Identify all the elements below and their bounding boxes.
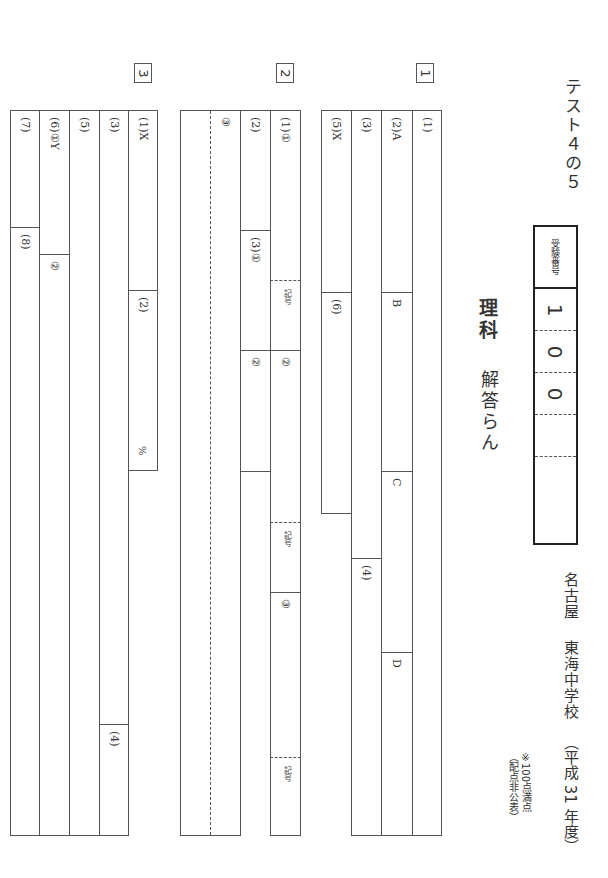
section-3-number: 3 <box>134 63 152 83</box>
exam-number-box: 受験番号 1 0 0 <box>533 225 578 545</box>
exam-digit-2[interactable]: 0 <box>535 331 576 373</box>
s3-q2-cell[interactable]: (2) % <box>128 290 158 471</box>
section-2-table: (1)① 記号 ② 記号 ③ 記号 (2) (3)① ② ③ <box>180 110 301 836</box>
s2-q2-cell[interactable]: (2) <box>240 110 271 231</box>
score-note: ※100点満点（配点非公表） <box>506 752 532 822</box>
s3-q3-cell[interactable]: (3) <box>99 110 129 725</box>
exam-digit-1[interactable]: 1 <box>535 289 576 331</box>
test-label: テスト４の５ <box>560 78 585 192</box>
s1-q2d-cell[interactable]: D <box>381 652 413 836</box>
s2-q1-1-cell[interactable]: (1)① <box>270 110 301 281</box>
s1-q2c-cell[interactable]: C <box>381 471 413 653</box>
section-2-number: 2 <box>276 63 294 83</box>
section-1-table: (1) (2)A B C D (3) (4) (5)X (6) <box>320 110 442 836</box>
s3-q7-cell[interactable]: (7) <box>10 110 40 228</box>
s2-q3-3-cell[interactable]: ③ <box>180 110 241 836</box>
s2-q3-2-cell[interactable]: ② <box>240 350 271 472</box>
section-3-table: (1)X (2) % (3) (4) (5) (6)①Y ② (7) (8) <box>10 110 158 836</box>
s3-q8-cell[interactable]: (8) <box>10 227 40 836</box>
s2-q1-kigou2-cell[interactable]: 記号 <box>270 522 301 593</box>
school-city: 名古屋 <box>560 572 581 620</box>
section-1-number: 1 <box>416 63 434 83</box>
s1-q3-cell[interactable]: (3) <box>351 110 382 559</box>
s2-q1-kigou3-cell[interactable]: 記号 <box>270 757 301 836</box>
s1-q1-cell[interactable]: (1) <box>412 110 442 836</box>
s1-q2a-cell[interactable]: (2)A <box>381 110 413 293</box>
s1-q2b-cell[interactable]: B <box>381 292 413 472</box>
exam-digit-3[interactable]: 0 <box>535 373 576 415</box>
subject-title: 理科 <box>474 298 501 342</box>
percent-unit: % <box>137 446 148 456</box>
school-name: 東海中学校 <box>560 640 581 720</box>
answer-sheet-title: 解答らん <box>475 370 501 454</box>
s3-q1x-cell[interactable]: (1)X <box>128 110 158 291</box>
exam-number-label: 受験番号 <box>535 227 576 289</box>
s1-q4-cell[interactable]: (4) <box>351 558 382 836</box>
s3-q5-cell[interactable]: (5) <box>69 110 100 836</box>
s1-q5x-cell[interactable]: (5)X <box>321 110 352 293</box>
exam-year: （平成 31 年度） <box>560 735 581 854</box>
s3-q6-1y-cell[interactable]: (6)①Y <box>39 110 70 255</box>
s2-q3-1-cell[interactable]: (3)① <box>240 230 271 351</box>
s2-q3-3-divider <box>210 111 211 835</box>
s3-q6-2-cell[interactable]: ② <box>39 254 70 836</box>
exam-digit-5[interactable] <box>535 457 576 543</box>
s2-q1-3-cell[interactable]: ③ <box>270 592 301 758</box>
s2-q1-2-cell[interactable]: ② <box>270 350 301 523</box>
s3-q4-cell[interactable]: (4) <box>99 724 129 836</box>
s1-q6-cell[interactable]: (6) <box>321 292 352 514</box>
s2-q1-kigou1-cell[interactable]: 記号 <box>270 280 301 351</box>
exam-digit-4[interactable] <box>535 415 576 457</box>
